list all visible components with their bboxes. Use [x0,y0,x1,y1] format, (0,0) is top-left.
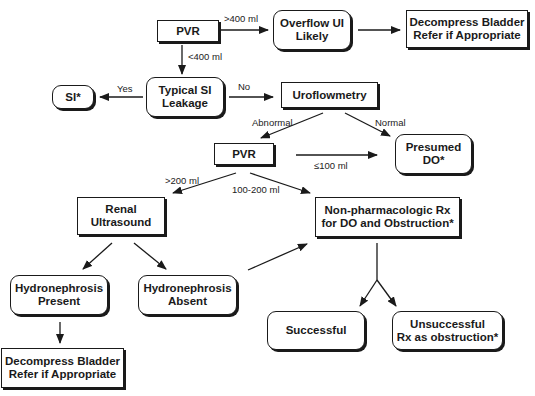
node-label: PVR [176,25,200,38]
arrow-renal-us-to-hydro-present [83,243,112,269]
node-label: Renal Ultrasound [91,203,152,229]
node-label: Hydronephrosis Absent [143,282,231,308]
edge-label-lt400: <400 ml [188,51,222,62]
node-label: Typical SI Leakage [159,84,212,110]
arrow-renal-us-to-hydro-absent [134,243,166,269]
node-label: Uroflowmetry [292,89,366,102]
node-typical-si-leakage: Typical SI Leakage [146,77,224,117]
node-nonpharmacologic-rx: Non-pharmacologic Rx for DO and Obstruct… [315,197,460,237]
node-label: Hydronephrosis Present [15,282,103,308]
node-pvr-second: PVR [214,143,274,165]
node-si: SI* [52,85,94,109]
edge-label-no: No [238,81,250,92]
edge-label-le100: ≤100 ml [314,160,348,171]
edge-label-yes: Yes [117,83,133,94]
edge-label-gt200: >200 ml [165,175,199,186]
node-successful: Successful [267,311,365,350]
node-overflow-ui-likely: Overflow UI Likely [273,10,351,50]
node-label: Decompress Bladder Refer if Appropriate [409,16,524,42]
arrow-to-successful [360,280,377,306]
node-label: SI* [65,91,80,104]
node-label: Unsuccessful Rx as obstruction* [397,318,499,344]
node-hydronephrosis-absent: Hydronephrosis Absent [138,275,237,315]
edge-label-abnormal: Abnormal [252,117,293,128]
node-label: PVR [232,148,256,161]
flowchart: PVR Overflow UI Likely Decompress Bladde… [0,0,535,396]
node-decompress-bladder-bottom: Decompress Bladder Refer if Appropriate [1,348,124,388]
node-decompress-bladder-top: Decompress Bladder Refer if Appropriate [406,10,528,48]
node-renal-ultrasound: Renal Ultrasound [77,197,165,235]
edge-label-gt400: >400 ml [224,13,258,24]
node-label: Successful [286,324,347,337]
node-label: Non-pharmacologic Rx for DO and Obstruct… [321,204,453,230]
arrow-to-unsuccessful [377,280,396,306]
node-unsuccessful: Unsuccessful Rx as obstruction* [392,311,503,350]
node-presumed-do: Presumed DO* [395,134,472,174]
edge-label-100-200: 100-200 ml [232,184,280,195]
node-label: Presumed DO* [406,141,462,167]
node-label: Overflow UI Likely [280,17,344,43]
arrow-hydro-absent-to-nonpharm [248,244,307,270]
node-pvr-initial: PVR [157,20,219,42]
edge-label-normal: Normal [375,117,406,128]
node-hydronephrosis-present: Hydronephrosis Present [10,275,108,315]
node-label: Decompress Bladder Refer if Appropriate [5,355,120,381]
node-uroflowmetry: Uroflowmetry [281,82,378,108]
